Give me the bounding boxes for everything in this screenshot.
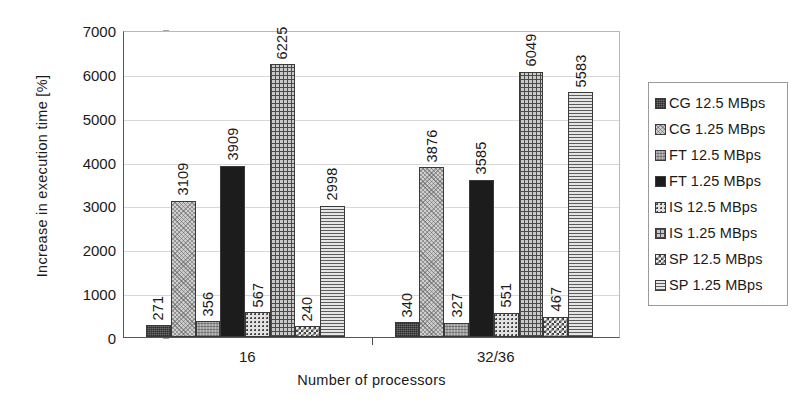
y-axis-tick-label: 3000 xyxy=(46,198,116,215)
y-axis-tick-label: 1000 xyxy=(46,286,116,303)
legend-swatch-icon xyxy=(655,176,666,187)
y-axis-tick-label: 2000 xyxy=(46,242,116,259)
bar-value-label: 3909 xyxy=(226,128,241,161)
bar-chart: Increase in execution time [%] 010002000… xyxy=(0,0,796,415)
bar-value-label: 567 xyxy=(250,282,265,307)
bar: 271 xyxy=(146,325,171,337)
bar-value-label: 3876 xyxy=(424,129,439,162)
bar-value-label: 551 xyxy=(499,283,514,308)
legend-item-label: IS 1.25 MBps xyxy=(669,225,757,241)
y-axis-tick-label: 5000 xyxy=(46,110,116,127)
bar: 3585 xyxy=(469,180,494,337)
x-axis-category-label: 32/36 xyxy=(477,348,515,365)
legend-item-label: CG 1.25 MBps xyxy=(669,121,765,137)
bar-value-label: 327 xyxy=(449,293,464,318)
legend-item[interactable]: IS 12.5 MBps xyxy=(655,194,782,220)
bar-value-label: 340 xyxy=(400,292,415,317)
bar-value-label: 356 xyxy=(201,292,216,317)
bar-value-label: 271 xyxy=(151,295,166,320)
bar: 3109 xyxy=(171,201,196,337)
bar: 467 xyxy=(543,317,568,337)
legend-item-label: FT 12.5 MBps xyxy=(669,147,761,163)
y-axis-tick-label: 4000 xyxy=(46,154,116,171)
plot-area: 2713109356390956762252402998340387632735… xyxy=(123,31,620,338)
bar: 5583 xyxy=(568,92,593,337)
legend-item[interactable]: FT 12.5 MBps xyxy=(655,142,782,168)
bar: 6225 xyxy=(270,64,295,337)
bar-value-label: 2998 xyxy=(325,167,340,200)
y-axis-tick-label: 6000 xyxy=(46,66,116,83)
legend-swatch-icon xyxy=(655,150,666,161)
y-axis-tick-label: 0 xyxy=(46,330,116,347)
bar: 567 xyxy=(245,312,270,337)
bar: 327 xyxy=(444,323,469,337)
bar-value-label: 3585 xyxy=(474,142,489,175)
bar: 340 xyxy=(395,322,420,337)
gridline xyxy=(124,207,619,208)
legend-swatch-icon xyxy=(655,202,666,213)
x-axis-tick-mark xyxy=(372,338,373,345)
bar: 356 xyxy=(196,321,221,337)
y-axis-tick-label: 7000 xyxy=(46,23,116,40)
legend-item[interactable]: SP 12.5 MBps xyxy=(655,246,782,272)
bar-value-label: 3109 xyxy=(176,163,191,196)
bar: 240 xyxy=(295,326,320,337)
legend-swatch-icon xyxy=(655,98,666,109)
legend-swatch-icon xyxy=(655,280,666,291)
bar-value-label: 467 xyxy=(549,287,564,312)
legend-item[interactable]: IS 1.25 MBps xyxy=(655,220,782,246)
legend-swatch-icon xyxy=(655,124,666,135)
legend-swatch-icon xyxy=(655,228,666,239)
gridline xyxy=(124,295,619,296)
legend-item-label: FT 1.25 MBps xyxy=(669,173,761,189)
bar-value-label: 240 xyxy=(300,297,315,322)
legend-item[interactable]: CG 12.5 MBps xyxy=(655,90,782,116)
x-axis-category-label: 16 xyxy=(239,348,256,365)
legend-swatch-icon xyxy=(655,254,666,265)
bar: 551 xyxy=(494,313,519,337)
legend-item[interactable]: FT 1.25 MBps xyxy=(655,168,782,194)
gridline xyxy=(124,251,619,252)
legend-item-label: SP 1.25 MBps xyxy=(669,277,763,293)
bar-value-label: 5583 xyxy=(573,54,588,87)
legend-item-label: IS 12.5 MBps xyxy=(669,199,757,215)
gridline xyxy=(124,76,619,77)
legend-item-label: CG 12.5 MBps xyxy=(669,95,765,111)
legend-item[interactable]: SP 1.25 MBps xyxy=(655,272,782,298)
bar-value-label: 6225 xyxy=(275,26,290,59)
chart-legend: CG 12.5 MBpsCG 1.25 MBpsFT 12.5 MBpsFT 1… xyxy=(648,82,788,306)
x-axis-title: Number of processors xyxy=(123,372,620,388)
bar: 3909 xyxy=(220,166,245,337)
bar: 3876 xyxy=(419,167,444,337)
bar: 2998 xyxy=(320,206,345,337)
gridline xyxy=(124,120,619,121)
legend-item[interactable]: CG 1.25 MBps xyxy=(655,116,782,142)
gridline xyxy=(124,164,619,165)
legend-item-label: SP 12.5 MBps xyxy=(669,251,763,267)
bar: 6049 xyxy=(519,72,544,337)
y-axis-tick-labels: 01000200030004000500060007000 xyxy=(46,0,116,415)
bar-value-label: 6049 xyxy=(524,34,539,67)
